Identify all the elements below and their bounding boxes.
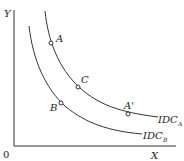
y-axis-label: Y — [4, 8, 12, 19]
point-a-prime-marker — [126, 112, 130, 116]
diagram-canvas: Y X 0 A C A' B IDC A IDC B — [0, 0, 184, 161]
x-axis-label: X — [150, 150, 159, 161]
point-a-marker — [49, 41, 53, 45]
curve-idc-a-subscript: A — [177, 120, 183, 127]
point-b-label: B — [49, 102, 57, 113]
point-a-prime-label: A' — [123, 100, 134, 111]
curve-idc-b-label: IDC — [142, 130, 163, 141]
point-b-marker — [59, 101, 63, 105]
origin-label: 0 — [3, 149, 9, 160]
point-c-label: C — [81, 74, 89, 85]
point-a-label: A — [55, 33, 63, 44]
curve-idc-a-label: IDC — [157, 114, 178, 125]
indifference-curve-diagram: Y X 0 A C A' B IDC A IDC B — [0, 0, 184, 161]
curve-idc-b-subscript: B — [162, 136, 168, 143]
point-c-marker — [76, 85, 80, 89]
